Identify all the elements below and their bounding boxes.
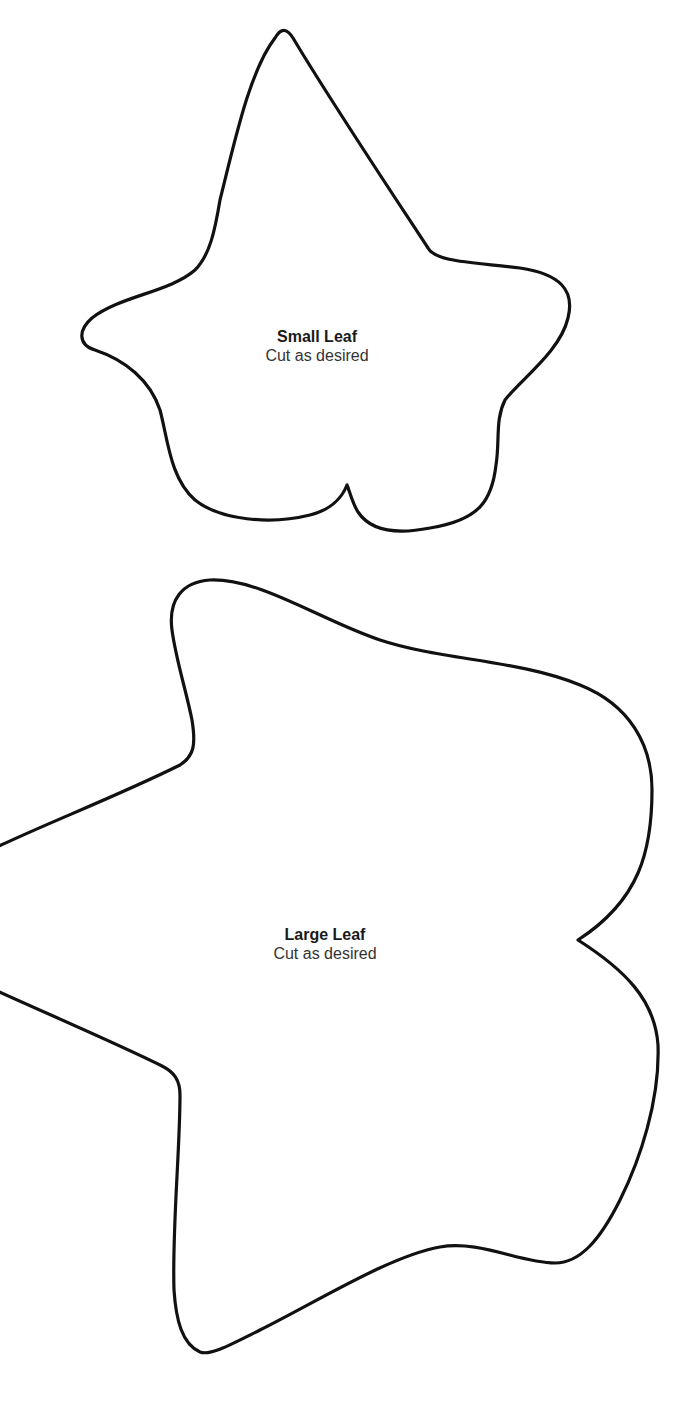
small-leaf-outline: [82, 30, 570, 531]
large-leaf-instruction: Cut as desired: [230, 944, 420, 963]
small-leaf-instruction: Cut as desired: [222, 346, 412, 365]
small-leaf-title: Small Leaf: [222, 327, 412, 346]
large-leaf-outline: [0, 580, 658, 1353]
leaf-shapes-canvas: [0, 0, 693, 1413]
large-leaf-label: Large Leaf Cut as desired: [230, 925, 420, 963]
small-leaf-label: Small Leaf Cut as desired: [222, 327, 412, 365]
large-leaf-title: Large Leaf: [230, 925, 420, 944]
template-page: Small Leaf Cut as desired Large Leaf Cut…: [0, 0, 693, 1413]
